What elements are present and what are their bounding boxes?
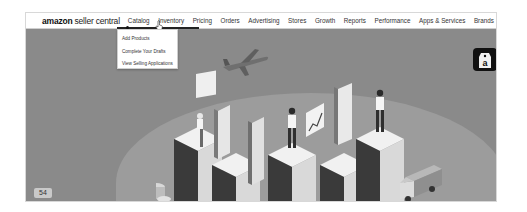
business-growth-illustration xyxy=(156,69,436,202)
amazon-tag-icon[interactable]: a xyxy=(473,48,496,71)
menu-item-add-products[interactable]: Add Products xyxy=(118,33,177,46)
delivery-truck-icon xyxy=(396,163,446,202)
nav-item-pricing[interactable]: Pricing xyxy=(193,17,212,24)
top-navigation-bar: amazon seller central Catalog Inventory … xyxy=(26,13,496,29)
hero-banner: a 54 xyxy=(26,29,496,202)
nav-item-stores[interactable]: Stores xyxy=(288,17,306,24)
seller-central-logo[interactable]: amazon seller central xyxy=(42,16,120,26)
logo-brand: amazon xyxy=(42,16,72,26)
menu-item-complete-drafts[interactable]: Complete Your Drafts xyxy=(118,46,177,59)
nav-item-reports[interactable]: Reports xyxy=(344,17,366,24)
slide-counter-badge: 54 xyxy=(34,188,52,198)
nav-item-brands[interactable]: Brands xyxy=(474,17,494,24)
nav-item-performance[interactable]: Performance xyxy=(374,17,410,24)
logo-product: seller central xyxy=(74,16,119,26)
nav-item-orders[interactable]: Orders xyxy=(221,17,240,24)
nav-item-growth[interactable]: Growth xyxy=(315,17,335,24)
nav-item-advertising[interactable]: Advertising xyxy=(248,17,279,24)
nav-menu: Catalog Inventory Pricing Orders Adverti… xyxy=(128,17,497,24)
nav-item-catalog[interactable]: Catalog xyxy=(128,17,150,24)
catalog-dropdown-menu: Add Products Complete Your Drafts View S… xyxy=(117,29,178,69)
nav-item-apps-services[interactable]: Apps & Services xyxy=(419,17,465,24)
seller-central-window: a 54 amazon seller central Catalog Inven… xyxy=(25,12,497,202)
menu-item-view-selling-applications[interactable]: View Selling Applications xyxy=(118,58,177,71)
